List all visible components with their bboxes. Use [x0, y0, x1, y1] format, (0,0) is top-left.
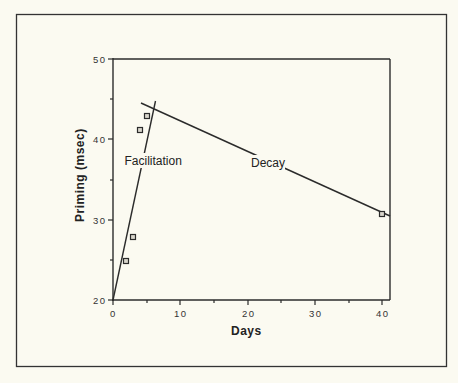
y-tick-labels: 50 40 30 20: [93, 54, 107, 306]
decay-label: Decay: [251, 156, 285, 170]
y-tick-label-20: 20: [93, 295, 107, 306]
x-tick-label-40: 40: [376, 308, 390, 319]
y-axis-title: Priming (msec): [73, 128, 87, 222]
data-point: [145, 114, 150, 119]
figure: 50 40 30 20 0 10 20 30 40 Days Priming (…: [0, 0, 458, 383]
data-point: [124, 259, 129, 264]
x-ticks: [113, 300, 382, 305]
x-tick-label-30: 30: [309, 308, 323, 319]
x-tick-labels: 0 10 20 30 40: [110, 308, 390, 319]
x-tick-label-0: 0: [110, 308, 117, 319]
data-markers: [124, 114, 385, 264]
x-tick-label-10: 10: [174, 308, 188, 319]
y-ticks: [108, 59, 113, 300]
plot-area: [112, 58, 390, 301]
y-tick-label-30: 30: [93, 215, 107, 226]
y-tick-label-50: 50: [93, 54, 107, 65]
y-tick-label-40: 40: [93, 134, 107, 145]
data-point: [380, 212, 385, 217]
x-tick-label-20: 20: [242, 308, 256, 319]
facilitation-label: Facilitation: [125, 154, 182, 168]
data-point: [131, 235, 136, 240]
x-axis-title: Days: [231, 324, 262, 338]
data-point: [138, 128, 143, 133]
facilitation-line: [113, 101, 156, 300]
